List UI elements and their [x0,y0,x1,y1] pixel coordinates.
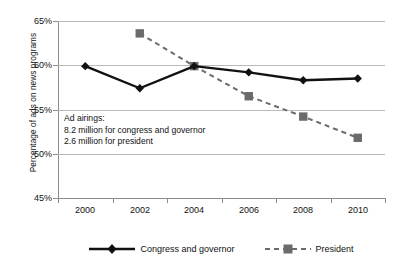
annotation-line-3: 2.6 million for president [64,136,205,148]
data-point [354,134,362,142]
legend-label-congress: Congress and governor [140,244,234,254]
congress-line [85,66,358,88]
series-congress-and-governor [81,62,362,93]
data-point [245,68,253,76]
data-point [81,62,89,70]
data-point [245,92,253,100]
congress-markers [81,62,362,93]
data-point [136,84,144,92]
chart-legend: Congress and governor President [58,239,385,259]
data-point [299,76,307,84]
annotation-line-1: Ad airings: [64,113,205,125]
legend-item-president: President [265,243,354,255]
data-point [299,112,307,120]
chart-figure: Percentage of ads on news programs 65% 6… [0,0,403,267]
legend-label-president: President [316,244,354,254]
legend-swatch-congress-icon [89,243,135,255]
data-point [354,74,362,82]
legend-swatch-president-icon [265,243,311,255]
annotation-line-2: 8.2 million for congress and governor [64,125,205,137]
annotation-block: Ad airings: 8.2 million for congress and… [64,113,205,148]
legend-item-congress: Congress and governor [89,243,234,255]
data-point [136,29,144,37]
